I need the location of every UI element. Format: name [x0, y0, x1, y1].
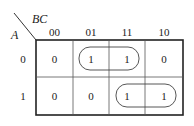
grid-border	[36, 40, 183, 115]
col-header: 11	[109, 26, 145, 38]
col-variable-label: BC	[32, 13, 47, 25]
col-header: 01	[73, 26, 109, 38]
kmap-cell: 1	[145, 90, 183, 102]
kmap-cell: 1	[109, 90, 145, 102]
kmap-cell: 0	[36, 90, 73, 102]
row-header: 0	[18, 53, 28, 65]
kmap-cell: 0	[73, 90, 109, 102]
kmap-cell: 1	[73, 53, 109, 65]
kmap-cell: 0	[145, 53, 183, 65]
col-header: 10	[145, 26, 183, 38]
row-variable-label: A	[11, 29, 18, 41]
col-header: 00	[36, 26, 73, 38]
kmap-cell: 1	[109, 53, 145, 65]
kmap-cell: 0	[36, 53, 73, 65]
row-header: 1	[18, 90, 28, 102]
